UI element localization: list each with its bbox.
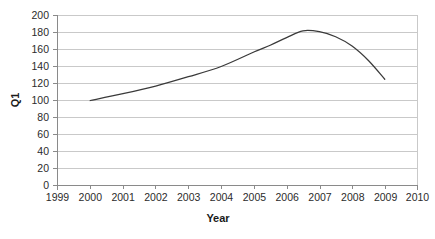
x-tick-label: 2001	[111, 191, 135, 203]
y-tick-label: 40	[37, 145, 49, 157]
y-tick-label: 80	[37, 111, 49, 123]
x-tick-label: 2002	[144, 191, 168, 203]
x-tick-label: 2003	[177, 191, 201, 203]
y-tick-label: 160	[31, 43, 49, 55]
y-tick-label: 0	[43, 179, 49, 191]
chart-canvas: 200 180 160 140 120 100 80 60 40 20 0 19…	[0, 0, 435, 239]
line-chart: 200 180 160 140 120 100 80 60 40 20 0 19…	[0, 0, 435, 239]
y-tick-label: 200	[31, 9, 49, 21]
x-axis-title: Year	[206, 212, 230, 224]
x-tick-label: 2004	[210, 191, 234, 203]
y-tick-label: 140	[31, 60, 49, 72]
x-tick-marks	[58, 186, 418, 191]
x-tick-label: 2010	[406, 191, 430, 203]
y-tick-label: 20	[37, 162, 49, 174]
x-tick-label: 1999	[46, 191, 70, 203]
y-tick-label: 180	[31, 26, 49, 38]
y-tick-marks	[53, 16, 57, 186]
x-tick-label: 2000	[79, 191, 103, 203]
x-tick-label: 2009	[374, 191, 398, 203]
y-tick-label: 100	[31, 94, 49, 106]
y-tick-label: 120	[31, 77, 49, 89]
y-axis-title: Q1	[9, 93, 21, 108]
y-tick-labels: 200 180 160 140 120 100 80 60 40 20 0	[31, 9, 49, 191]
x-tick-label: 2007	[308, 191, 332, 203]
x-tick-labels: 1999 2000 2001 2002 2003 2004 2005 2006 …	[46, 191, 430, 203]
x-tick-label: 2008	[341, 191, 365, 203]
y-tick-label: 60	[37, 128, 49, 140]
x-tick-label: 2005	[243, 191, 267, 203]
x-tick-label: 2006	[276, 191, 300, 203]
